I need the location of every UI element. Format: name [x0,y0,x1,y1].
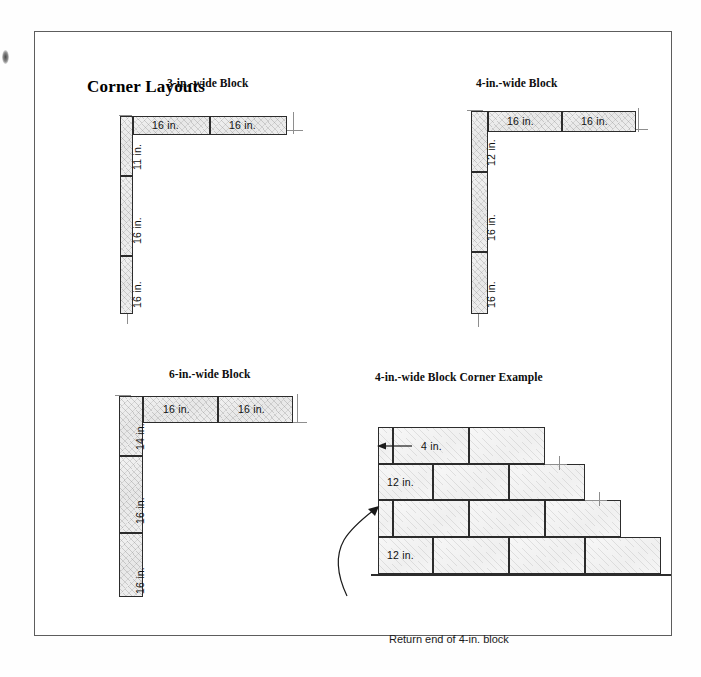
ground-line [371,574,671,576]
dimension-label-12in-upper: 12 in. [387,476,414,488]
page-edge-smudge [2,50,9,64]
block-vertical-2 [120,176,133,256]
guide-line [545,464,567,465]
dimension-label-h1: 16 in. [507,115,534,127]
dimension-label-h1: 16 in. [163,403,190,415]
guide-line [297,394,298,422]
dimension-label-h2: 16 in. [229,119,256,131]
block-course3-a [393,500,469,537]
callout-return-end-label: Return end of 4-in. block [389,633,509,645]
panel-title-corner-example: 4-in.-wide Block Corner Example [375,371,543,383]
dimension-label-v1: 11 in. [131,144,143,170]
block-course2-b [433,464,509,500]
block-course3-c [545,500,621,537]
panel-title-6in: 6-in.-wide Block [169,368,250,380]
dimension-label-4in: 4 in. [421,440,442,452]
dimension-label-v2: 16 in. [131,217,143,244]
block-course4-d [585,537,661,574]
dimension-label-v3: 16 in. [134,567,146,594]
block-course2-c [509,464,585,500]
block-course4-b [433,537,509,574]
guide-line [559,456,560,470]
dimension-label-v1: 12 in. [485,139,497,166]
dimension-label-v3: 16 in. [485,281,497,308]
dimension-label-v3: 16 in. [131,281,143,308]
block-course1-return [378,427,393,464]
panel-title-3in: 3-in.-wide Block [167,77,248,89]
block-course1-b [469,427,545,464]
guide-line [478,313,479,327]
guide-line [638,108,639,132]
dimension-label-h2: 16 in. [581,115,608,127]
dimension-label-12in-lower: 12 in. [387,549,414,561]
guide-line [599,492,600,506]
panel-title-4in: 4-in.-wide Block [476,77,557,89]
block-course3-return [378,500,393,537]
dimension-label-h1: 16 in. [152,119,179,131]
dimension-label-h2: 16 in. [238,403,265,415]
dimension-label-v1: 14 in. [134,423,146,450]
block-course4-c [509,537,585,574]
figure-frame: Corner Layouts 3-in.-wide Block 11 in. 1… [34,31,672,636]
dimension-label-v2: 16 in. [485,214,497,241]
block-course3-b [469,500,545,537]
page-canvas: Corner Layouts 3-in.-wide Block 11 in. 1… [0,0,701,677]
dimension-label-v2: 16 in. [134,497,146,524]
guide-line [585,500,607,501]
guide-line [293,112,294,134]
